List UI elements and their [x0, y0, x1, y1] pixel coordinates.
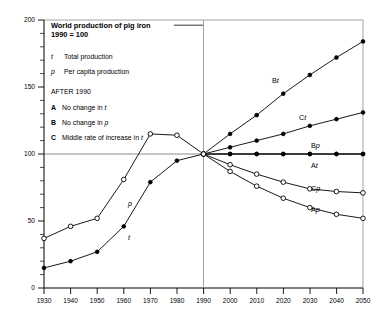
pig-iron-line-chart: 200 150 100 50 0 1930 1940 1950 — [0, 0, 383, 324]
data-point-Bt-2050 — [361, 40, 365, 44]
y-tick-label: 100 — [24, 150, 35, 157]
data-point-p-1950 — [95, 216, 100, 221]
x-tick-label: 1940 — [63, 297, 78, 304]
data-point-Ap-2040 — [334, 212, 339, 217]
data-point-At-2010 — [255, 152, 259, 156]
y-axis-labels: 200 150 100 50 0 — [24, 16, 35, 291]
chart-container: 200 150 100 50 0 1930 1940 1950 — [0, 0, 383, 324]
data-point-p-1970 — [148, 132, 153, 137]
legend-label-p: Per capita production — [64, 68, 129, 76]
data-point-Cp-2010 — [254, 172, 259, 177]
x-tick-label: 2030 — [303, 297, 318, 304]
legend-section-heading: AFTER 1990 — [51, 88, 91, 95]
annotation-p: p — [127, 199, 132, 208]
data-point-p-1940 — [68, 224, 73, 229]
chart-title-block: World production of pig iron 1990 = 100 — [51, 21, 203, 39]
data-point-p-1960 — [121, 177, 126, 182]
x-axis-ticks — [44, 288, 363, 294]
data-point-Cp-2050 — [361, 191, 366, 196]
annotation-At: At — [311, 161, 319, 170]
x-tick-label: 2050 — [356, 297, 371, 304]
annotation-t: t — [128, 233, 131, 242]
x-tick-label: 2000 — [223, 297, 238, 304]
x-tick-label: 1980 — [170, 297, 185, 304]
data-point-At-2040 — [335, 152, 339, 156]
data-point-t-1930 — [42, 266, 46, 270]
data-point-Ap-2010 — [254, 184, 259, 189]
data-point-Cp-2040 — [334, 189, 339, 194]
legend-label-A-text: No change in — [62, 104, 105, 112]
series-Bt — [202, 40, 365, 156]
data-point-Ap-2050 — [361, 216, 366, 221]
series-line-t — [44, 154, 204, 268]
legend-key-t: t — [51, 53, 54, 60]
x-tick-label: 2010 — [249, 297, 264, 304]
series-annotations: p t Bt Ct Bp At Cp Ap — [127, 76, 320, 242]
x-tick-label: 1960 — [116, 297, 131, 304]
x-axis-labels: 1930 1940 1950 1960 1970 1980 1990 2000 … — [37, 297, 371, 304]
data-point-Bt-2020 — [281, 92, 285, 96]
annotation-Ap: Ap — [311, 205, 320, 214]
data-point-t-1960 — [122, 224, 126, 228]
legend-label-t: Total production — [64, 53, 113, 61]
chart-subtitle: 1990 = 100 — [51, 30, 88, 39]
legend-label-B: No change in p — [62, 119, 109, 127]
annotation-Ct: Ct — [299, 113, 307, 122]
legend-label-B-text: No change in — [62, 119, 105, 127]
legend-label-A-var: t — [105, 104, 108, 111]
series-line-Bt — [204, 41, 364, 154]
data-point-At-2000 — [228, 152, 232, 156]
data-point-t-1980 — [175, 159, 179, 163]
x-tick-label: 2020 — [276, 297, 291, 304]
data-point-Ap-1990 — [201, 152, 206, 157]
legend-key-B: B — [51, 119, 56, 126]
series-line-p — [44, 134, 204, 239]
legend-label-A: No change in t — [62, 104, 108, 112]
data-point-At-2050 — [361, 152, 365, 156]
data-point-t-1940 — [69, 259, 73, 263]
page-title: World production of pig iron — [51, 21, 151, 30]
x-tick-label: 2040 — [329, 297, 344, 304]
legend-label-B-var: p — [104, 119, 109, 127]
data-point-At-2020 — [281, 152, 285, 156]
legend-label-C-var: t — [141, 134, 144, 141]
data-point-Bt-2030 — [308, 73, 312, 77]
y-tick-label: 200 — [24, 16, 35, 23]
data-point-At-2030 — [308, 152, 312, 156]
data-point-Ct-2050 — [361, 111, 365, 115]
annotation-Bp: Bp — [311, 141, 320, 150]
x-tick-label: 1970 — [143, 297, 158, 304]
y-axis-ticks — [38, 20, 44, 288]
data-point-Ct-2010 — [255, 139, 259, 143]
data-point-Ct-2020 — [281, 132, 285, 136]
data-point-Ap-2000 — [228, 169, 233, 174]
x-tick-label: 1990 — [196, 297, 211, 304]
x-tick-label: 1930 — [37, 297, 52, 304]
data-point-p-1980 — [175, 133, 180, 138]
data-point-Cp-2020 — [281, 180, 286, 185]
data-point-Bt-2040 — [335, 56, 339, 60]
data-point-t-1970 — [148, 180, 152, 184]
data-point-Ct-2040 — [335, 117, 339, 121]
series-Ct — [202, 111, 365, 156]
legend-label-C: Middle rate of increase in t — [62, 134, 144, 141]
data-point-p-1930 — [42, 236, 47, 241]
legend-key-A: A — [51, 104, 56, 111]
series-line-Cp — [204, 154, 364, 193]
data-point-t-1950 — [95, 250, 99, 254]
data-point-Ct-2030 — [308, 124, 312, 128]
data-point-Ct-2000 — [228, 145, 232, 149]
annotation-Bt: Bt — [272, 76, 280, 85]
y-tick-label: 0 — [31, 284, 35, 291]
y-tick-label: 150 — [24, 83, 35, 90]
series-At — [202, 152, 365, 156]
legend-key-p: p — [50, 68, 55, 76]
annotation-Cp: Cp — [311, 184, 320, 193]
series-Cp — [201, 152, 365, 195]
data-point-Bt-2000 — [228, 132, 232, 136]
data-point-Cp-2000 — [228, 162, 233, 167]
series-Ap — [201, 152, 365, 221]
series-t — [42, 152, 205, 270]
data-point-Bt-2010 — [255, 113, 259, 117]
chart-legend: t Total production p Per capita producti… — [50, 53, 144, 141]
